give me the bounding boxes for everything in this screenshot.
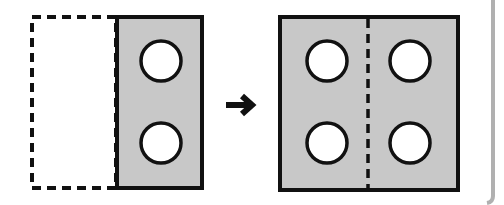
hole-bottom — [141, 123, 181, 163]
hole-bottom-left — [307, 123, 347, 163]
hole-top-right — [390, 41, 430, 81]
before-figure — [32, 17, 202, 188]
fold-diagram — [0, 0, 504, 205]
ghost-half-outline — [32, 17, 116, 188]
hole-top-left — [307, 41, 347, 81]
hole-bottom-right — [390, 123, 430, 163]
after-figure — [280, 17, 458, 190]
frame-edge — [487, 0, 493, 203]
arrow-right-icon — [226, 96, 252, 114]
hole-top — [141, 41, 181, 81]
